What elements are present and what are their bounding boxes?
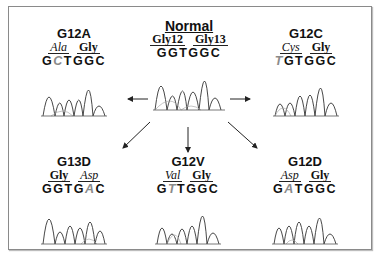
panel-normal: Normal Gly12 Gly13 GGTGGC — [139, 19, 239, 114]
codon-labels: Cys Gly — [256, 41, 356, 54]
codon-label: Ala — [48, 41, 69, 54]
sequence: GGTGGC — [139, 46, 239, 60]
mutant-base: C — [53, 54, 64, 68]
base: T — [179, 46, 188, 60]
sequence: TGTGGC — [256, 54, 356, 68]
panel-title: G12C — [256, 27, 356, 41]
sequence: GATGGC — [255, 182, 355, 196]
base: C — [95, 54, 106, 68]
chromatogram — [41, 198, 107, 248]
base: C — [211, 46, 222, 60]
base: G — [273, 182, 284, 196]
base: G — [42, 54, 53, 68]
base: G — [74, 182, 85, 196]
base: C — [327, 54, 338, 68]
chromatogram — [273, 70, 339, 120]
base: T — [65, 182, 74, 196]
panel-g13d: G13D Gly Asp GGTGAC — [24, 155, 124, 248]
codon-label: Asp — [279, 169, 301, 182]
codon-label: Gly — [310, 41, 333, 54]
codon-labels: Val Gly — [138, 169, 238, 182]
base: G — [168, 46, 179, 60]
codon-labels: Asp Gly — [255, 169, 355, 182]
chromatogram — [155, 198, 221, 248]
base: T — [177, 182, 186, 196]
mutant-base: T — [168, 182, 177, 196]
base: T — [295, 182, 304, 196]
base: G — [157, 46, 168, 60]
panel-g12c: G12C Cys Gly TGTGGC — [256, 27, 356, 120]
base: G — [200, 46, 211, 60]
panel-title: Normal — [139, 19, 239, 33]
panel-g12v: G12V Val Gly GTTGGC — [138, 155, 238, 248]
codon-label: Gly13 — [193, 33, 228, 46]
base: T — [64, 54, 73, 68]
base: C — [209, 182, 220, 196]
base: G — [73, 54, 84, 68]
base: G — [315, 182, 326, 196]
mutant-base: A — [85, 182, 96, 196]
codon-label: Gly — [309, 169, 332, 182]
arrow-to-g12d — [228, 122, 257, 148]
codon-label: Asp — [78, 169, 100, 182]
panel-g12a: G12A Ala Gly GCTGGC — [24, 27, 124, 120]
codon-label: Gly — [48, 169, 71, 182]
panel-title: G12D — [255, 155, 355, 169]
sequence: GTTGGC — [138, 182, 238, 196]
mutant-base: A — [284, 182, 295, 196]
base: G — [304, 54, 315, 68]
chromatogram — [153, 62, 225, 114]
sequence: GCTGGC — [24, 54, 124, 68]
codon-labels: Gly Asp — [24, 169, 124, 182]
codon-label: Gly — [190, 169, 213, 182]
chromatogram — [272, 198, 338, 248]
mutant-base: T — [275, 54, 284, 68]
codon-label: Gly — [77, 41, 100, 54]
base: G — [304, 182, 315, 196]
base: G — [315, 54, 326, 68]
codon-label: Cys — [280, 41, 302, 54]
panel-title: G12A — [24, 27, 124, 41]
base: T — [295, 54, 304, 68]
base: G — [197, 182, 208, 196]
base: G — [53, 182, 64, 196]
base: G — [157, 182, 168, 196]
base: G — [186, 182, 197, 196]
base: C — [326, 182, 337, 196]
base: G — [284, 54, 295, 68]
base: C — [95, 182, 106, 196]
base: G — [84, 54, 95, 68]
panel-g12d: G12D Asp Gly GATGGC — [255, 155, 355, 248]
codon-labels: Gly12 Gly13 — [139, 33, 239, 46]
base: G — [188, 46, 199, 60]
sequence: GGTGAC — [24, 182, 124, 196]
panel-title: G12V — [138, 155, 238, 169]
arrow-to-g13d — [123, 122, 150, 148]
panel-title: G13D — [24, 155, 124, 169]
chromatogram — [41, 70, 107, 120]
base: G — [42, 182, 53, 196]
codon-labels: Ala Gly — [24, 41, 124, 54]
codon-label: Val — [163, 169, 182, 182]
codon-label: Gly12 — [150, 33, 185, 46]
